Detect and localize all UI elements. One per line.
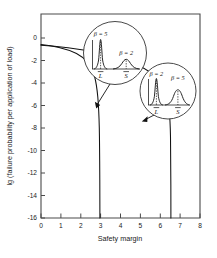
y-tick-label-6: -12	[27, 169, 37, 176]
x-tick-label-2: 2	[79, 222, 83, 229]
y-tick-label-5: -10	[27, 147, 37, 154]
x-tick-label-7: 7	[178, 222, 182, 229]
y-tick-label-8: -16	[27, 214, 37, 221]
y-tick-label-3: -6	[31, 102, 37, 109]
x-tick-label-0: 0	[39, 222, 43, 229]
upper-inset-symbol-left: L	[98, 72, 103, 79]
figure-container: 0 -2 -4 -6 -8 -10 -12 -14 -16 0 1 2 3	[0, 0, 217, 258]
upper-inset: β = 5 β = 2 L S	[84, 22, 147, 85]
lower-inset-beta-left-label: β = 2	[149, 70, 165, 77]
upper-inset-beta-left-label: β = 5	[93, 30, 108, 37]
lower-inset-symbol-left: L	[154, 108, 159, 115]
x-tick-label-8: 8	[198, 222, 202, 229]
safety-margin-chart: 0 -2 -4 -6 -8 -10 -12 -14 -16 0 1 2 3	[0, 0, 217, 258]
y-tick-label-7: -14	[27, 192, 37, 199]
x-tick-label-5: 5	[139, 222, 143, 229]
x-tick-label-1: 1	[59, 222, 63, 229]
y-tick-label-2: -4	[31, 79, 37, 86]
y-axis-title: lg (failure probability per application …	[5, 46, 14, 185]
x-axis-title: Safety margin	[98, 234, 142, 243]
x-tick-label-3: 3	[99, 222, 103, 229]
lower-inset: β = 2 β = 5 L S	[140, 63, 196, 119]
x-tick-label-4: 4	[119, 222, 123, 229]
x-tick-label-6: 6	[158, 222, 162, 229]
upper-inset-beta-right-label: β = 2	[118, 49, 134, 56]
y-tick-label-4: -8	[31, 124, 37, 131]
y-tick-label-1: -2	[31, 57, 37, 64]
y-tick-label-0: 0	[33, 34, 37, 41]
lower-inset-beta-right-label: β = 5	[170, 74, 185, 81]
